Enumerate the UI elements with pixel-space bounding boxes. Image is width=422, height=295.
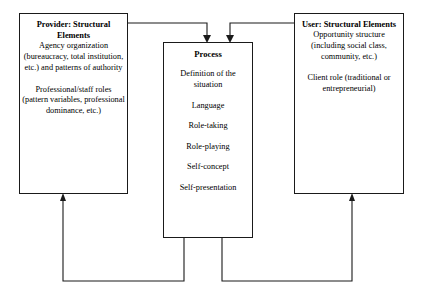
process-item-self-concept: Self-concept bbox=[167, 162, 249, 173]
provider-paragraph-agency-organization: Agency organization (bureaucracy, total … bbox=[20, 41, 127, 73]
process-item-role-taking: Role-taking bbox=[167, 121, 249, 132]
arrowhead-up-process-to-user bbox=[349, 193, 355, 201]
process-item-list: Definition of the situation Language Rol… bbox=[164, 60, 252, 193]
provider-paragraph-professional-staff-roles: Professional/staff roles (pattern variab… bbox=[20, 85, 127, 117]
connector-provider-to-process bbox=[128, 23, 207, 36]
provider-title: Provider: Structural Elements bbox=[20, 14, 127, 41]
user-box: User: Structural Elements Opportunity st… bbox=[294, 13, 404, 194]
process-title: Process bbox=[164, 43, 252, 60]
user-title: User: Structural Elements bbox=[295, 14, 403, 30]
arrowhead-up-process-to-provider bbox=[60, 193, 66, 201]
process-item-definition-of-the-situation: Definition of the situation bbox=[167, 69, 249, 90]
process-box: Process Definition of the situation Lang… bbox=[163, 42, 253, 238]
connector-user-to-process bbox=[230, 23, 294, 36]
provider-box: Provider: Structural Elements Agency org… bbox=[19, 13, 128, 194]
user-paragraph-client-role: Client role (traditional or entrepreneur… bbox=[295, 73, 403, 95]
user-paragraph-opportunity-structure: Opportunity structure (including social … bbox=[295, 30, 403, 62]
process-item-self-presentation: Self-presentation bbox=[167, 183, 249, 194]
diagram-canvas: Provider: Structural Elements Agency org… bbox=[0, 0, 422, 295]
process-item-language: Language bbox=[167, 101, 249, 112]
process-item-role-playing: Role-playing bbox=[167, 142, 249, 153]
